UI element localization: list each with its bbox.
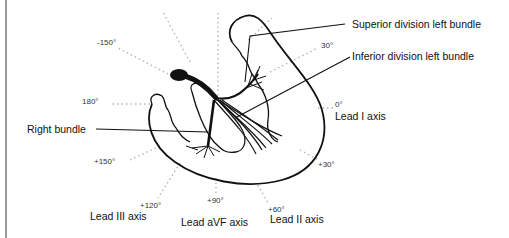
angle-label-0: 0° <box>335 100 343 109</box>
label-lead-avf-axis: Lead aVF axis <box>181 216 248 228</box>
his-bundle <box>185 76 216 98</box>
label-lead-i-axis: Lead I axis <box>335 110 386 122</box>
inferior-division-fibers <box>214 98 282 154</box>
right-bundle-purkinje <box>186 146 220 158</box>
right-ventricle-cavity <box>151 94 190 142</box>
label-inferior-division: Inferior division left bundle <box>352 50 474 62</box>
angle-label-plus150: +150° <box>94 157 115 166</box>
angle-label-plus120: +120° <box>140 201 161 210</box>
angle-label-plus90: +90° <box>207 196 224 205</box>
axis-ray-plus60 <box>258 185 268 203</box>
diagram-frame: Superior division left bundle Inferior d… <box>0 0 509 238</box>
leader-superior <box>245 24 345 82</box>
ventricle-outline <box>149 15 324 184</box>
axis-ray-minus30 <box>270 48 318 72</box>
axis-ray-minus150 <box>118 48 172 76</box>
label-right-bundle: Right bundle <box>27 123 86 135</box>
leader-lines <box>96 24 350 132</box>
label-superior-division: Superior division left bundle <box>352 18 481 30</box>
conduction-diagram: Superior division left bundle Inferior d… <box>0 0 509 238</box>
angle-label-minus30: 30° <box>321 41 333 50</box>
leader-inferior <box>235 57 350 118</box>
angle-label-plus30: +30° <box>318 160 335 169</box>
axis-ray-minus120 <box>163 12 190 62</box>
axis-ray-plus150 <box>130 146 160 160</box>
angle-label-180: 180° <box>82 97 99 106</box>
angle-label-minus150: -150° <box>97 38 116 47</box>
label-lead-ii-axis: Lead II axis <box>270 213 324 225</box>
axis-ray-plus120 <box>158 163 180 198</box>
label-lead-iii-axis: Lead III axis <box>90 210 147 222</box>
